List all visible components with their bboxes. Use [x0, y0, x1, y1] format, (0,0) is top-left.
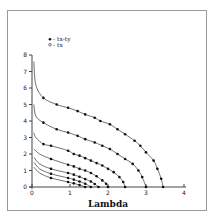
data-point	[84, 157, 87, 160]
data-point	[160, 177, 163, 180]
data-point	[42, 143, 45, 146]
data-point	[78, 168, 81, 171]
data-point	[101, 144, 104, 147]
data-point	[84, 186, 87, 189]
data-point	[50, 173, 53, 176]
x-tick-label: 0	[30, 189, 34, 196]
y-tick-label: 2	[23, 150, 27, 157]
data-point	[112, 171, 115, 174]
data-point	[42, 121, 45, 124]
markers	[42, 97, 164, 189]
series-line-1	[34, 62, 163, 187]
y-tick-label: 6	[23, 84, 27, 91]
data-point	[124, 158, 127, 161]
data-point	[116, 153, 119, 156]
data-point	[67, 172, 70, 175]
data-point	[67, 107, 70, 110]
chart: 01234 012345678 Lambda -tx-ty-tx	[0, 0, 218, 223]
data-point	[73, 182, 76, 185]
data-point	[141, 176, 144, 179]
y-tick-label: 1	[23, 167, 27, 174]
x-tick-label: 2	[106, 189, 110, 196]
data-point	[50, 144, 53, 147]
data-point	[107, 186, 110, 189]
data-point	[90, 159, 93, 162]
data-point	[133, 140, 136, 143]
data-point	[124, 186, 127, 189]
data-point	[139, 144, 142, 147]
x-tick-label: 4	[182, 189, 186, 196]
data-point	[145, 151, 148, 154]
data-point	[105, 182, 108, 185]
data-point	[131, 163, 134, 166]
data-point	[124, 133, 127, 136]
data-point	[116, 128, 119, 131]
data-point	[109, 148, 112, 151]
data-point	[67, 163, 70, 166]
data-point	[93, 183, 96, 186]
data-point	[107, 168, 110, 171]
data-point	[42, 97, 45, 100]
data-point	[99, 120, 102, 123]
curves	[34, 62, 163, 187]
series-line-4	[34, 149, 108, 187]
data-point	[118, 176, 121, 179]
data-point	[162, 186, 165, 189]
data-point	[122, 181, 125, 184]
data-point	[67, 149, 70, 152]
y-tick-label: 3	[23, 134, 27, 141]
data-point	[78, 154, 81, 157]
data-point	[137, 169, 140, 172]
data-point	[50, 158, 53, 161]
y-tick-label: 0	[23, 183, 27, 190]
data-point	[93, 141, 96, 144]
data-point	[90, 172, 93, 175]
data-point	[73, 173, 76, 176]
data-point	[95, 162, 98, 165]
data-point	[73, 165, 76, 168]
data-point	[84, 113, 87, 116]
data-point	[152, 159, 155, 162]
data-point	[67, 177, 70, 180]
data-point	[90, 180, 93, 183]
data-point	[97, 186, 100, 189]
legend-dash: -	[53, 41, 55, 48]
data-point	[84, 138, 87, 141]
data-point	[101, 164, 104, 167]
data-point	[73, 153, 76, 156]
legend-marker-open	[49, 43, 52, 46]
y-tick-label: 8	[23, 51, 27, 58]
series-line-3	[34, 133, 125, 187]
data-point	[50, 168, 53, 171]
y-tick-label: 7	[23, 68, 27, 75]
data-point	[50, 177, 53, 180]
data-point	[84, 169, 87, 172]
y-ticks: 012345678	[23, 51, 32, 190]
legend: -tx-ty-tx	[49, 35, 71, 48]
data-point	[109, 123, 112, 126]
data-point	[90, 186, 93, 189]
data-point	[78, 184, 81, 187]
data-point	[78, 180, 81, 183]
data-point	[73, 178, 76, 181]
data-point	[84, 182, 87, 185]
data-point	[145, 186, 148, 189]
data-point	[55, 103, 58, 106]
y-tick-label: 4	[23, 117, 27, 124]
data-point	[101, 179, 104, 182]
data-point	[67, 131, 70, 134]
data-point	[93, 116, 96, 119]
data-point	[76, 110, 79, 113]
y-tick-label: 5	[23, 101, 27, 108]
x-tick-label: 1	[68, 189, 72, 196]
x-tick-label: 3	[144, 189, 148, 196]
x-axis-title: Lambda	[88, 199, 128, 209]
data-point	[95, 175, 98, 178]
data-point	[67, 181, 70, 184]
legend-label: tx	[57, 41, 63, 48]
legend-marker-filled	[49, 38, 52, 41]
data-point	[156, 168, 159, 171]
data-point	[84, 178, 87, 181]
data-point	[78, 175, 81, 178]
data-point	[76, 135, 79, 138]
